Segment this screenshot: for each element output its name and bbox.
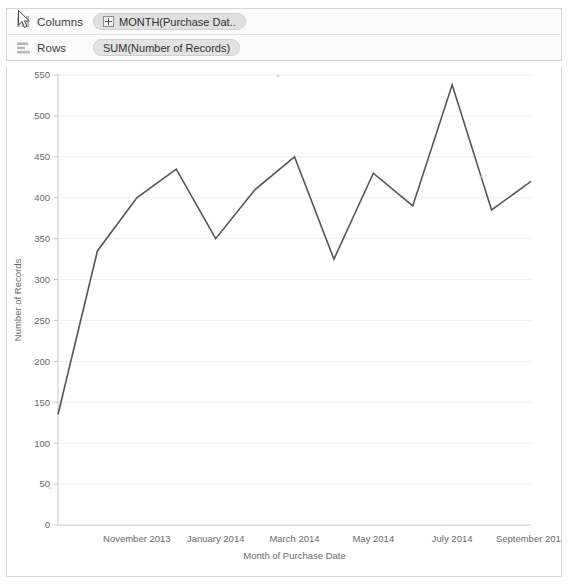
- x-axis-title: Month of Purchase Date: [243, 550, 345, 561]
- x-axis-tick-labels: November 2013January 2014March 2014May 2…: [103, 533, 561, 544]
- speckle-artifact: [479, 175, 482, 178]
- x-axis-tick-label: May 2014: [352, 533, 394, 544]
- x-axis-tick-label: March 2014: [269, 533, 319, 544]
- y-axis-tick-label: 350: [34, 233, 50, 244]
- pill-sum-number-of-records[interactable]: SUM(Number of Records): [93, 39, 240, 56]
- x-axis-tick-label: July 2014: [432, 533, 473, 544]
- rows-shelf[interactable]: Rows SUM(Number of Records): [7, 35, 561, 61]
- y-axis-tick-label: 400: [34, 192, 50, 203]
- pill-month-purchase-date-label: MONTH(Purchase Dat..: [119, 16, 236, 28]
- y-axis-tick-label: 300: [34, 274, 50, 285]
- line-path-sum-number-of-records[interactable]: [58, 85, 531, 415]
- y-axis-tick-label: 500: [34, 110, 50, 121]
- pill-month-purchase-date[interactable]: MONTH(Purchase Dat..: [93, 13, 246, 30]
- y-axis-tick-label: 100: [34, 438, 50, 449]
- pill-sum-number-of-records-label: SUM(Number of Records): [103, 42, 230, 54]
- y-axis-tick-label: 0: [45, 519, 50, 530]
- y-axis-tick-label: 450: [34, 151, 50, 162]
- plus-box-icon[interactable]: [103, 16, 114, 27]
- columns-shelf-label: Columns: [37, 16, 93, 28]
- line-chart[interactable]: 050100150200250300350400450500550 Novemb…: [7, 67, 561, 575]
- data-line-series[interactable]: [58, 85, 531, 415]
- y-axis-title: Number of Records: [12, 259, 23, 342]
- rows-shelf-icon: [17, 42, 31, 54]
- speckle-artifact: [48, 486, 51, 489]
- x-axis-tick-label: September 2014: [496, 533, 561, 544]
- chart-axes: [54, 73, 531, 525]
- columns-shelf-icon: [17, 16, 31, 28]
- y-axis-tick-label: 250: [34, 315, 50, 326]
- shelf-area: Columns MONTH(Purchase Dat.. Rows SUM(Nu…: [6, 8, 562, 61]
- chart-view-panel: 050100150200250300350400450500550 Novemb…: [6, 67, 562, 577]
- chart-gridlines: [58, 75, 531, 484]
- speckle-artifact: [276, 74, 279, 77]
- x-axis-tick-label: January 2014: [187, 533, 245, 544]
- y-axis-tick-labels: 050100150200250300350400450500550: [34, 69, 50, 530]
- y-axis-tick-label: 200: [34, 356, 50, 367]
- rows-shelf-label: Rows: [37, 42, 93, 54]
- tableau-worksheet-window: Columns MONTH(Purchase Dat.. Rows SUM(Nu…: [0, 0, 568, 584]
- y-axis-tick-label: 150: [34, 397, 50, 408]
- y-axis-tick-label: 550: [34, 69, 50, 80]
- render-artifacts: [48, 74, 482, 489]
- columns-shelf[interactable]: Columns MONTH(Purchase Dat..: [7, 9, 561, 35]
- x-axis-tick-label: November 2013: [103, 533, 171, 544]
